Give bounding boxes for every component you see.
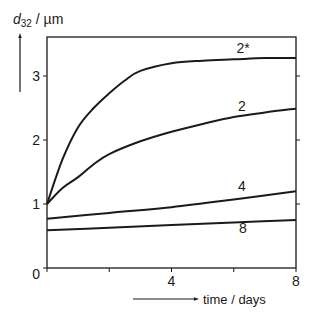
curve-label: 2 bbox=[238, 98, 246, 114]
curve-label: 4 bbox=[238, 178, 246, 194]
y-axis-label: d32 / µm bbox=[13, 11, 63, 29]
x-tick-label: 8 bbox=[292, 273, 300, 289]
x-tick-label: 4 bbox=[168, 273, 176, 289]
x-axis-arrow-icon bbox=[133, 297, 199, 300]
y-tick-label: 2 bbox=[32, 132, 40, 148]
y-tick-label: 1 bbox=[32, 196, 40, 212]
curve-2 bbox=[47, 109, 296, 204]
y-tick-label: 0 bbox=[32, 266, 40, 282]
plot-frame bbox=[47, 37, 296, 268]
curve-label: 2* bbox=[236, 40, 250, 56]
chart-canvas: d32 / µm 480123 2*248 time / days bbox=[0, 0, 314, 320]
curve-4 bbox=[47, 191, 296, 219]
curve-label: 8 bbox=[239, 220, 247, 236]
curve-labels: 2*248 bbox=[236, 40, 250, 236]
data-curves bbox=[47, 58, 296, 230]
y-axis-arrow-icon bbox=[18, 33, 21, 92]
tick-labels: 480123 bbox=[32, 68, 300, 289]
curve-8 bbox=[47, 220, 296, 230]
x-axis-label: time / days bbox=[203, 292, 266, 307]
y-tick-label: 3 bbox=[32, 68, 40, 84]
